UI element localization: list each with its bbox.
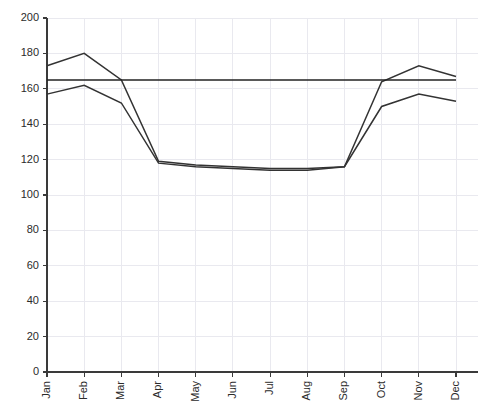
y-tick-label: 160 xyxy=(21,82,39,94)
y-tick-label: 40 xyxy=(27,294,39,306)
x-tick-label: Sep xyxy=(337,381,349,401)
x-tick-label: May xyxy=(189,381,201,402)
x-tick-label: Apr xyxy=(151,381,163,398)
x-tick-label: Oct xyxy=(375,381,387,398)
chart-container: 020406080100120140160180200 JanFebMarApr… xyxy=(0,0,486,413)
y-tick-label: 140 xyxy=(21,117,39,129)
y-tick-label: 200 xyxy=(21,11,39,23)
x-tick-label: Dec xyxy=(449,381,461,401)
x-tick-label: Nov xyxy=(412,381,424,401)
y-tick-label: 180 xyxy=(21,46,39,58)
y-tick-label: 80 xyxy=(27,223,39,235)
x-tick-label: Jan xyxy=(40,381,52,399)
y-tick-label: 0 xyxy=(33,365,39,377)
line-chart: 020406080100120140160180200 JanFebMarApr… xyxy=(0,0,486,413)
x-tick-label: Jul xyxy=(263,381,275,395)
chart-background xyxy=(0,0,486,413)
x-tick-label: Mar xyxy=(114,381,126,400)
y-tick-label: 100 xyxy=(21,188,39,200)
x-tick-label: Jun xyxy=(226,381,238,399)
y-tick-label: 60 xyxy=(27,259,39,271)
x-tick-label: Aug xyxy=(300,381,312,401)
y-tick-label: 20 xyxy=(27,330,39,342)
y-tick-label: 120 xyxy=(21,153,39,165)
x-tick-label: Feb xyxy=(77,381,89,400)
